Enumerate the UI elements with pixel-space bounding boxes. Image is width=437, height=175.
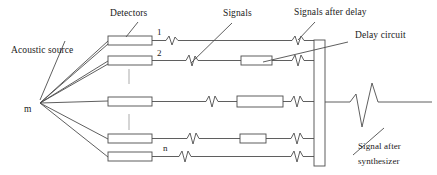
channel-row-4 (108, 133, 314, 144)
ray-to-detector-5 (40, 103, 108, 157)
annotation-leaders (126, 22, 384, 155)
signal-zigzag-5a (179, 151, 191, 162)
delay-box-4 (240, 134, 266, 143)
detector-box-3 (108, 97, 152, 106)
channel-label-1: 1 (157, 27, 162, 37)
channel-row-3 (108, 96, 314, 107)
delay-box-2 (241, 56, 272, 65)
acoustic-fan-rays (40, 41, 108, 157)
detectors-label: Detectors (110, 8, 147, 19)
signal-zigzag-2a (186, 55, 198, 66)
signal-zigzag-1b (292, 36, 304, 45)
signal-zigzag-3a (206, 96, 218, 107)
delay-circuit-leader (263, 42, 348, 62)
source-point-label: m (24, 104, 32, 115)
signal-after-synthesizer-label-line2: synthesizer (358, 156, 400, 166)
signal-zigzag-2b (292, 55, 304, 66)
ray-to-detector-2b (40, 64, 108, 103)
channel-row-5 (108, 151, 314, 162)
detector-box-2 (108, 56, 152, 65)
ray-to-detector-4 (40, 103, 108, 139)
delay-circuit-label: Delay circuit (355, 30, 406, 41)
detectors-leader (126, 22, 138, 37)
signal-after-synthesizer-label-line1: Signal after (358, 141, 401, 151)
delay-box-3 (237, 96, 283, 107)
figure-canvas: Acoustic source m Detectors Signals Sign… (0, 0, 437, 175)
detector-box-4 (108, 134, 152, 143)
signal-zigzag-3b (291, 96, 303, 107)
synthesizer-bar (314, 40, 325, 166)
signals-leader (191, 23, 232, 63)
channel-label-2: 2 (157, 48, 162, 58)
channel-row-2 (108, 55, 314, 66)
signal-zigzag-5b (291, 151, 303, 162)
signal-zigzag-4a (187, 133, 199, 144)
signal-zigzag-1a (166, 36, 178, 45)
signals-after-delay-label: Signals after delay (294, 7, 367, 18)
detector-box-1 (108, 36, 152, 45)
ray-to-detector-3 (40, 101, 108, 103)
signal-zigzag-4b (291, 133, 303, 144)
detector-box-5 (108, 152, 152, 161)
channel-label-n: n (163, 143, 168, 153)
signals-after-delay-leader (298, 22, 315, 40)
signals-label: Signals (223, 8, 252, 19)
acoustic-source-label: Acoustic source (11, 45, 73, 56)
output-waveform (325, 83, 432, 127)
